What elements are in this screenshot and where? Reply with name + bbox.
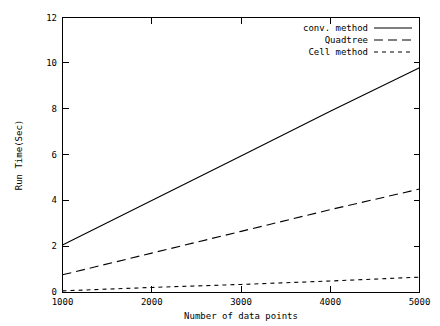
x-tick-label: 1000 — [52, 297, 74, 307]
y-tick-label: 0 — [52, 287, 57, 297]
y-tick-label: 4 — [52, 195, 57, 205]
chart-container: 0 2 4 6 8 10 12 1000 2000 3000 4000 5000… — [0, 0, 440, 326]
y-tick-label: 2 — [52, 241, 57, 251]
y-axis-title: Run Time(Sec) — [14, 120, 24, 190]
x-tick-label: 5000 — [409, 297, 431, 307]
legend-label-quadtree: Quadtree — [325, 35, 368, 45]
x-axis-title: Number of data points — [184, 311, 298, 321]
x-tick-label: 4000 — [319, 297, 341, 307]
chart-background — [0, 0, 440, 326]
x-tick-label: 3000 — [230, 297, 252, 307]
line-chart: 0 2 4 6 8 10 12 1000 2000 3000 4000 5000… — [0, 0, 440, 326]
y-tick-label: 8 — [52, 104, 57, 114]
legend-label-cell-method: Cell method — [308, 47, 368, 57]
y-tick-label: 6 — [52, 150, 57, 160]
legend-label-conv-method: conv. method — [303, 23, 368, 33]
y-tick-label: 10 — [46, 58, 57, 68]
y-tick-label: 12 — [46, 13, 57, 23]
x-tick-label: 2000 — [141, 297, 163, 307]
